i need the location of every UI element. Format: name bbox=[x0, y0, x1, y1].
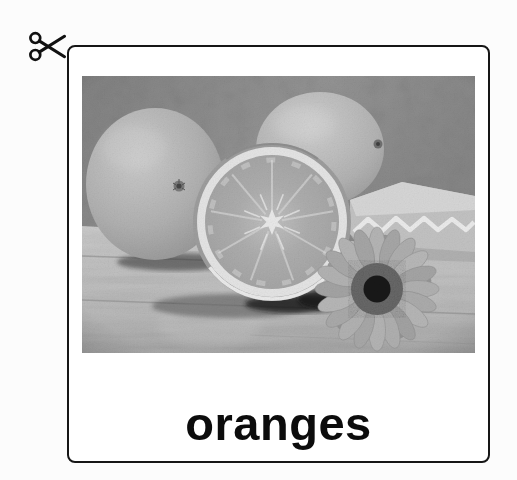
oranges-photo bbox=[82, 76, 475, 353]
flashcard: oranges bbox=[67, 45, 490, 463]
scissors-icon bbox=[28, 28, 68, 65]
flashcard-page: oranges bbox=[0, 0, 517, 480]
grain-overlay bbox=[82, 76, 475, 353]
card-word: oranges bbox=[69, 399, 488, 448]
